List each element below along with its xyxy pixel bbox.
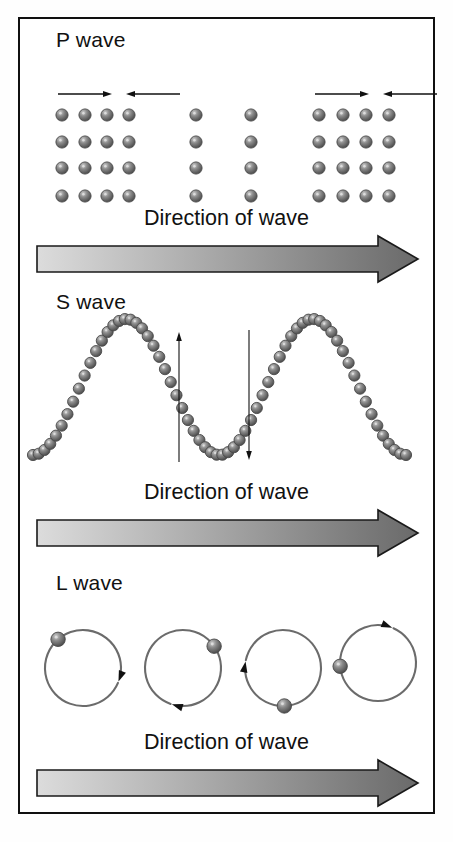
p-wave-particle-r3-c6-body	[313, 190, 325, 202]
section-l-wave: L wave Direction of wave	[0, 563, 453, 818]
p-wave-particle-r1-c3-highlight	[126, 139, 128, 141]
p-wave-particle-r2-c2-body	[101, 162, 113, 174]
s-wave-particle-55-body	[343, 357, 354, 368]
s-wave-particle-5-body	[56, 420, 67, 431]
p-wave-particle-r1-c6	[313, 136, 325, 148]
compression-arrow-left-2-head	[126, 91, 135, 97]
p-wave-particle-r1-c4-highlight	[193, 139, 195, 141]
p-wave-particle-r2-c8	[360, 162, 372, 174]
p-wave-particle-r1-c2-highlight	[104, 139, 106, 141]
s-wave-particle-7-body	[68, 396, 79, 407]
s-wave-particle-39-highlight	[254, 405, 256, 407]
s-wave-particle-38-body	[245, 414, 256, 425]
s-wave-particle-26	[177, 402, 188, 413]
p-wave-particle-r0-c1-highlight	[82, 112, 84, 114]
orbit-3-ring	[245, 630, 321, 706]
s-wave-particle-50-highlight	[317, 318, 319, 320]
s-wave-particle-7-highlight	[71, 399, 73, 401]
p-wave-particle-r1-c5-highlight	[248, 139, 250, 141]
p-wave-particle-r0-c8-body	[360, 109, 372, 121]
s-wave-direction-banner	[0, 509, 453, 557]
s-wave-particle-4-highlight	[53, 433, 55, 435]
s-wave-particle-14-highlight	[111, 323, 113, 325]
s-wave-particle-59-body	[366, 409, 377, 420]
p-wave-particle-r1-c0-highlight	[59, 139, 61, 141]
section-p-wave: P wave Direction of wave	[0, 20, 453, 275]
s-wave-particle-11	[91, 346, 102, 357]
s-wave-particle-37-highlight	[243, 428, 245, 430]
s-wave-particle-7	[68, 396, 79, 407]
l-wave-particle-3-body	[277, 699, 291, 713]
s-wave-particle-23-highlight	[162, 366, 164, 368]
p-wave-particle-r3-c6	[313, 190, 325, 202]
s-wave-particle-17-highlight	[128, 317, 130, 319]
direction-arrow-shape	[37, 510, 418, 556]
p-wave-particle-r1-c7-body	[337, 136, 349, 148]
p-wave-particle-r2-c3-body	[123, 162, 135, 174]
s-wave-particle-11-body	[91, 346, 102, 357]
p-wave-particle-r2-c9	[383, 162, 395, 174]
s-wave-particle-2-highlight	[42, 447, 44, 449]
s-wave-particle-30-highlight	[203, 444, 205, 446]
p-wave-particle-r3-c5	[245, 190, 257, 202]
p-wave-particle-r3-c2-highlight	[104, 193, 106, 195]
orbit-4-arrowhead	[381, 620, 393, 628]
s-wave-particle-23	[159, 364, 170, 375]
p-wave-particle-r3-c0	[56, 190, 68, 202]
s-wave-particle-13-highlight	[105, 329, 107, 331]
s-wave-particle-5	[56, 420, 67, 431]
p-wave-particle-r2-c7	[337, 162, 349, 174]
l-wave-canvas	[0, 563, 453, 753]
p-wave-direction-label: Direction of wave	[0, 206, 453, 231]
s-wave-particle-12-highlight	[99, 338, 101, 340]
p-wave-particle-r0-c2-highlight	[104, 112, 106, 114]
s-wave-particle-11-highlight	[94, 348, 96, 350]
p-wave-particle-r0-c8	[360, 109, 372, 121]
p-wave-particle-r2-c9-body	[383, 162, 395, 174]
s-wave-particle-43-highlight	[277, 354, 279, 356]
p-wave-particle-r2-c0-body	[56, 162, 68, 174]
s-wave-particle-48-highlight	[306, 317, 308, 319]
p-wave-particle-r2-c2	[101, 162, 113, 174]
p-wave-particle-r1-c7-highlight	[340, 139, 342, 141]
s-wave-particle-38	[245, 414, 256, 425]
p-wave-particle-r3-c0-highlight	[59, 193, 61, 195]
p-wave-particle-r3-c7-highlight	[340, 193, 342, 195]
l-wave-direction-label: Direction of wave	[0, 730, 453, 755]
s-wave-particle-1-highlight	[36, 451, 38, 453]
p-wave-particle-r0-c5	[245, 109, 257, 121]
s-wave-particle-35-highlight	[231, 444, 233, 446]
s-wave-particle-56-body	[349, 370, 360, 381]
s-wave-particle-63-highlight	[392, 447, 394, 449]
compression-arrow-right-1	[315, 91, 369, 97]
s-wave-particle-59-highlight	[369, 411, 371, 413]
p-wave-particle-r3-c1-highlight	[82, 193, 84, 195]
p-wave-particle-r0-c9-body	[383, 109, 395, 121]
p-wave-particle-r2-c7-highlight	[340, 165, 342, 167]
s-wave-particle-42-highlight	[271, 366, 273, 368]
s-wave-particle-28-highlight	[191, 428, 193, 430]
p-wave-particle-r0-c9	[383, 109, 395, 121]
p-wave-particle-r2-c5	[245, 162, 257, 174]
p-wave-particle-r3-c2-body	[101, 190, 113, 202]
l-wave-particle-1-highlight	[55, 636, 58, 639]
s-wave-particle-40	[257, 390, 268, 401]
p-wave-particle-r1-c2	[101, 136, 113, 148]
p-wave-particle-r2-c2-highlight	[104, 165, 106, 167]
p-wave-particle-r1-c8-body	[360, 136, 372, 148]
p-wave-particle-r2-c5-body	[245, 162, 257, 174]
p-wave-particle-r1-c9	[383, 136, 395, 148]
p-wave-particle-r1-c8-highlight	[363, 139, 365, 141]
p-wave-particle-r3-c9-body	[383, 190, 395, 202]
p-wave-particle-r3-c1-body	[79, 190, 91, 202]
s-wave-particle-19-highlight	[139, 326, 141, 328]
p-wave-particle-r3-c7-body	[337, 190, 349, 202]
s-wave-particle-6	[62, 409, 73, 420]
s-wave-particle-39-body	[251, 402, 262, 413]
p-wave-particle-r3-c9-highlight	[386, 193, 388, 195]
compression-arrow-left-1-head	[103, 91, 112, 97]
s-wave-particle-9-body	[79, 370, 90, 381]
p-wave-particle-r0-c7	[337, 109, 349, 121]
s-wave-particle-56-highlight	[352, 373, 354, 375]
s-wave-particle-65	[400, 449, 411, 460]
